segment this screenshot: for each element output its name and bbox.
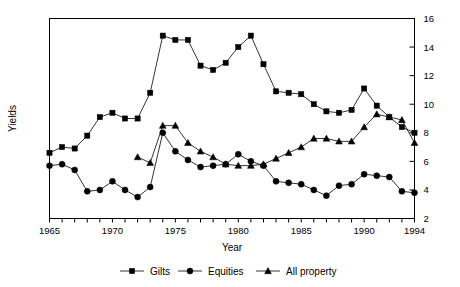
data-point [298,144,305,150]
data-point [47,150,52,155]
y-tick-label: 2 [424,213,429,224]
data-point [373,111,380,117]
data-point [411,139,418,145]
series-gilts [47,33,417,155]
y-tick-label: 16 [424,13,435,24]
data-point [336,110,341,115]
data-point [172,148,178,154]
data-point [374,103,379,108]
data-point [72,146,77,151]
data-point [286,90,291,95]
x-tick-label: 1985 [291,225,312,236]
x-axis-label: Year [222,242,243,253]
data-point [84,188,90,194]
data-point [399,124,404,129]
y-axis-ticks [410,19,415,219]
y-tick-label: 14 [424,42,435,53]
data-point [59,144,64,149]
data-point [198,63,203,68]
data-point [122,116,127,121]
data-point [374,173,380,179]
data-point [109,178,115,184]
data-point [210,163,216,169]
data-point [59,161,65,167]
legend-item-equities[interactable]: Equities [178,266,244,277]
data-point [261,62,266,67]
y-tick-label: 12 [424,70,435,81]
data-point [211,67,216,72]
legend-label: All property [286,266,337,277]
data-point [286,180,292,186]
yields-line-chart: 1965197019751980198519901994 24681012141… [0,0,460,287]
data-point [210,154,217,160]
data-series-group [47,33,418,200]
data-point [148,90,153,95]
data-point [362,86,367,91]
data-point [236,44,241,49]
data-point [248,33,253,38]
data-point [298,181,304,187]
chart-legend: GiltsEquitiesAll property [120,266,337,277]
x-tick-label: 1965 [39,225,60,236]
data-point [135,194,141,200]
data-point [235,151,241,157]
data-point [361,171,367,177]
data-point [299,92,304,97]
data-point [412,190,418,196]
data-point [197,148,204,154]
data-point [134,154,141,160]
data-point [122,187,128,193]
data-point [72,167,78,173]
data-point [311,187,317,193]
data-point [323,193,329,199]
data-point [198,164,204,170]
x-tick-label: 1990 [354,225,375,236]
data-point [185,139,192,145]
y-tick-label: 10 [424,99,435,110]
x-axis-ticks [50,219,415,223]
data-point [97,114,102,119]
y-tick-label: 8 [424,127,429,138]
data-point [97,187,103,193]
data-point [336,183,342,189]
x-tick-label: 1975 [165,225,186,236]
data-point [349,181,355,187]
x-tick-label: 1970 [102,225,123,236]
y-axis-label: Yields [7,105,18,132]
data-point [173,37,178,42]
data-point [349,107,354,112]
data-point [386,174,392,180]
data-point [160,33,165,38]
legend-label: Gilts [150,266,170,277]
plot-frame [50,19,415,219]
legend-label: Equities [208,266,244,277]
data-point [311,102,316,107]
data-point [273,89,278,94]
x-tick-label: 1980 [228,225,249,236]
data-point [147,159,154,165]
data-point [285,149,292,155]
data-point [185,37,190,42]
x-axis-tick-labels: 1965197019751980198519901994 [39,225,425,236]
legend-item-gilts[interactable]: Gilts [120,266,170,277]
data-point [47,163,53,169]
y-tick-label: 6 [424,156,429,167]
data-point [135,116,140,121]
data-point [273,178,279,184]
legend-item-all-property[interactable]: All property [256,266,337,277]
legend-marker [187,268,193,274]
data-point [110,110,115,115]
y-tick-label: 4 [424,184,429,195]
chart-container: 1965197019751980198519901994 24681012141… [0,0,460,287]
y-axis-tick-labels: 246810121416 [424,13,435,224]
data-point [412,130,417,135]
data-point [147,184,153,190]
data-point [273,155,280,161]
data-point [223,60,228,65]
x-tick-label: 1994 [404,225,425,236]
data-point [85,133,90,138]
series-all-property [134,111,418,169]
series-path [50,36,415,153]
data-point [185,157,191,163]
data-point [399,188,405,194]
